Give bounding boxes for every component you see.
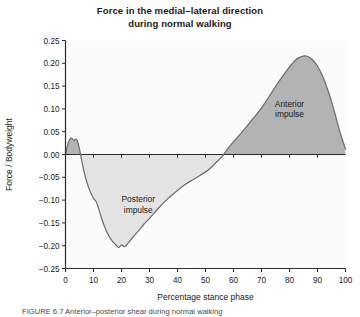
x-tick-label: 10 xyxy=(89,276,99,285)
x-tick-label: 70 xyxy=(257,276,267,285)
x-tick-label: 30 xyxy=(145,276,155,285)
y-tick-label: −0.05 xyxy=(39,173,60,182)
x-tick-label: 90 xyxy=(313,276,323,285)
chart-plot: −0.25−0.20−0.15−0.10−0.050.000.050.100.1… xyxy=(0,0,360,317)
y-tick-label: −0.10 xyxy=(39,196,60,205)
x-axis-title: Percentage stance phase xyxy=(157,292,254,302)
y-axis-tick-labels: −0.25−0.20−0.15−0.10−0.050.000.050.100.1… xyxy=(39,37,60,274)
x-tick-label: 0 xyxy=(63,276,68,285)
figure-container: Force in the medial–lateral direction du… xyxy=(0,0,360,317)
x-tick-label: 50 xyxy=(201,276,211,285)
y-tick-label: −0.20 xyxy=(39,242,60,251)
posterior-impulse-label-line2: impulse xyxy=(124,205,153,215)
figure-caption: FIGURE 6.7 Anterior–posterior shear duri… xyxy=(22,307,352,317)
y-tick-label: 0.20 xyxy=(44,59,60,68)
anterior-impulse-label-line1: Anterior xyxy=(275,99,305,109)
x-tick-label: 80 xyxy=(285,276,295,285)
y-tick-label: −0.25 xyxy=(39,265,60,274)
y-tick-label: 0.05 xyxy=(44,128,60,137)
y-tick-label: 0.10 xyxy=(44,105,60,114)
posterior-impulse-label-line1: Posterior xyxy=(122,194,156,204)
y-axis-title: Force / Bodyweight xyxy=(4,117,14,190)
y-tick-label: −0.15 xyxy=(39,219,60,228)
x-tick-label: 40 xyxy=(173,276,183,285)
y-tick-label: 0.00 xyxy=(44,151,60,160)
x-axis-tick-labels: 0102030405060708090100 xyxy=(63,276,353,285)
y-tick-label: 0.25 xyxy=(44,37,60,46)
x-tick-label: 100 xyxy=(339,276,353,285)
x-tick-label: 20 xyxy=(117,276,127,285)
y-tick-label: 0.15 xyxy=(44,82,60,91)
anterior-impulse-label-line2: impulse xyxy=(275,109,304,119)
x-tick-label: 60 xyxy=(229,276,239,285)
